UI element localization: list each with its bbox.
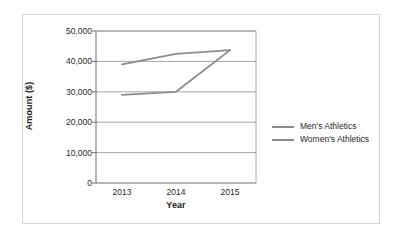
y-axis-title: Amount ($) (22, 56, 36, 156)
legend-line-swatch (272, 139, 294, 141)
y-axis-title-text: Amount ($) (24, 82, 34, 131)
y-tick-label: 40,000 (40, 57, 92, 66)
y-tick-label: 0 (40, 179, 92, 188)
y-tick-label: 20,000 (40, 118, 92, 127)
x-axis-tick-labels: 201320142015 (0, 188, 402, 202)
x-tick-label: 2014 (154, 188, 198, 197)
tick-mark-group (92, 31, 96, 183)
legend-item: Women's Athletics (272, 133, 382, 146)
data-series-group (122, 50, 230, 95)
x-tick-label: 2015 (208, 188, 252, 197)
chart-legend: Men's AthleticsWomen's Athletics (272, 120, 382, 146)
legend-item: Men's Athletics (272, 120, 382, 133)
x-tick-label: 2013 (100, 188, 144, 197)
legend-label: Men's Athletics (300, 122, 356, 131)
y-tick-label: 50,000 (40, 27, 92, 36)
legend-line-swatch (272, 126, 294, 128)
series-line (122, 50, 230, 95)
y-tick-label: 30,000 (40, 88, 92, 97)
y-tick-label: 10,000 (40, 148, 92, 157)
legend-label: Women's Athletics (300, 135, 369, 144)
